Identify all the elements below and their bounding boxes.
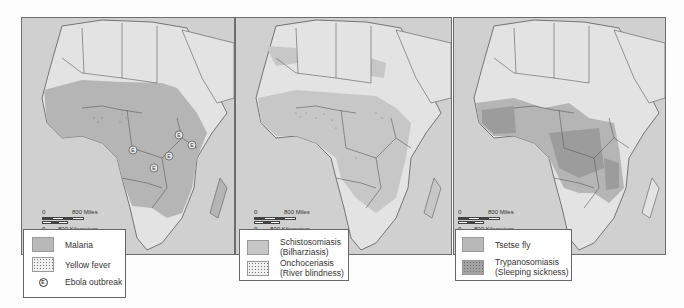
legend-tsetse: Tsetse fly Trypanosomiasis(Sleeping sick…: [455, 229, 572, 281]
scale-bar-km: [254, 221, 280, 224]
legend-item-yellow-fever: Yellow fever: [32, 257, 111, 272]
legend-item-trypanosomiasis: Trypanosomiasis(Sleeping sickness): [462, 257, 569, 277]
legend-item-schistosomiasis: Schistosomiasis(Bilharziasis): [247, 237, 341, 257]
malaria-swatch: [32, 237, 54, 252]
tsetse-fly-swatch: [462, 237, 484, 252]
map-panel-tsetse: 0 800 Miles 0 800 Kilometers: [453, 17, 666, 255]
map-panel-malaria: E E E E E 0 800 Miles 0 800 Kilometers: [21, 17, 235, 255]
ebola-icon: E: [32, 277, 54, 287]
legend-item-ebola: E Ebola outbreak: [32, 277, 122, 287]
scale-bar-km: [458, 221, 484, 224]
map-panel-schistosomiasis: 0 800 Miles 0 800 Kilometers: [235, 17, 452, 255]
legend-item-onchoceriasis: Onchoceriasis(River blindness): [247, 258, 344, 278]
onchoceriasis-swatch: [247, 261, 269, 276]
schistosomiasis-swatch: [247, 240, 269, 255]
trypanosomiasis-swatch: [462, 260, 484, 275]
scale-bar-miles: [458, 217, 500, 220]
scale-bar-miles: [254, 217, 296, 220]
legend-item-malaria: Malaria: [32, 237, 93, 252]
legend-schistosomiasis: Schistosomiasis(Bilharziasis) Onchoceria…: [239, 229, 349, 281]
legend-item-tsetse-fly: Tsetse fly: [462, 237, 530, 252]
scale-bar-miles: [42, 217, 84, 220]
legend-malaria: Malaria Yellow fever E Ebola outbreak: [23, 229, 126, 298]
scale-bar-km: [42, 221, 68, 224]
yellow-fever-swatch: [32, 257, 54, 272]
